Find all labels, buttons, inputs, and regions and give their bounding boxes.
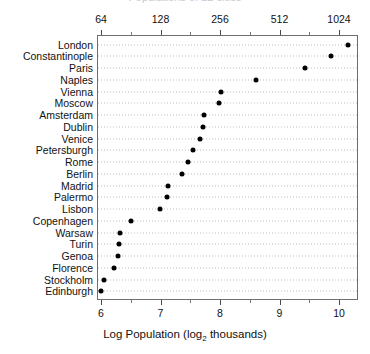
gridline	[98, 197, 357, 198]
category-label: Rome	[65, 156, 93, 168]
data-point[interactable]	[303, 66, 308, 71]
gridline	[98, 220, 357, 221]
gridline	[98, 291, 357, 292]
top-axis-tick	[280, 30, 281, 35]
top-axis-tick-label: 256	[211, 13, 229, 25]
data-point[interactable]	[101, 277, 106, 282]
gridline	[98, 267, 357, 268]
category-label: Moscow	[54, 97, 93, 109]
gridline	[98, 232, 357, 233]
gridline	[98, 256, 357, 257]
category-label: Genoa	[61, 250, 93, 262]
bottom-axis-minor-tick	[309, 300, 310, 303]
category-label: Naples	[60, 74, 93, 86]
gridline	[98, 44, 357, 45]
gridline	[98, 162, 357, 163]
category-label: Palermo	[54, 191, 93, 203]
gridline	[98, 126, 357, 127]
category-label: Vienna	[60, 86, 93, 98]
category-label: London	[58, 39, 93, 51]
data-point[interactable]	[185, 160, 190, 165]
gridline	[98, 244, 357, 245]
bottom-axis-tick	[161, 300, 162, 305]
bottom-axis-tick-label: 7	[158, 307, 164, 319]
x-axis-label: Log Population (log2 thousands)	[0, 328, 370, 343]
x-axis-label-tail: thousands)	[207, 328, 267, 340]
category-label: Constantinople	[23, 50, 93, 62]
gridline	[98, 91, 357, 92]
data-point[interactable]	[179, 171, 184, 176]
top-axis-minor-tick	[309, 32, 310, 35]
plot-area	[97, 35, 358, 300]
bottom-axis-tick	[280, 300, 281, 305]
data-point[interactable]	[216, 101, 221, 106]
data-point[interactable]	[329, 54, 334, 59]
top-axis-minor-tick	[250, 32, 251, 35]
bottom-axis-tick	[101, 300, 102, 305]
category-label: Lisbon	[62, 203, 93, 215]
bottom-axis-minor-tick	[131, 300, 132, 303]
bottom-axis-tick-label: 9	[277, 307, 283, 319]
bottom-axis-tick	[220, 300, 221, 305]
data-point[interactable]	[99, 289, 104, 294]
data-point[interactable]	[112, 265, 117, 270]
bottom-axis-minor-tick	[250, 300, 251, 303]
gridline	[98, 103, 357, 104]
top-axis-tick-label: 128	[152, 13, 170, 25]
top-axis-tick-label: 64	[95, 13, 107, 25]
category-label: Berlin	[66, 168, 93, 180]
gridline	[98, 150, 357, 151]
chart-root: Populations of 22 cities 641282565121024…	[0, 0, 370, 354]
bottom-axis-minor-tick	[190, 300, 191, 303]
data-point[interactable]	[116, 254, 121, 259]
data-point[interactable]	[116, 242, 121, 247]
data-point[interactable]	[197, 136, 202, 141]
bottom-axis-tick-label: 6	[98, 307, 104, 319]
gridline	[98, 173, 357, 174]
data-point[interactable]	[157, 207, 162, 212]
data-point[interactable]	[200, 124, 205, 129]
top-axis-minor-tick	[131, 32, 132, 35]
top-axis-tick	[161, 30, 162, 35]
gridline	[98, 68, 357, 69]
data-point[interactable]	[218, 89, 223, 94]
category-label: Edinburgh	[45, 285, 93, 297]
gridline	[98, 279, 357, 280]
gridline	[98, 56, 357, 57]
category-label: Venice	[61, 133, 93, 145]
gridline	[98, 79, 357, 80]
chart-title: Populations of 22 cities	[0, 0, 370, 3]
top-axis-tick	[220, 30, 221, 35]
data-point[interactable]	[118, 230, 123, 235]
category-label: Copenhagen	[33, 215, 93, 227]
bottom-axis-tick-label: 10	[333, 307, 345, 319]
category-label: Turin	[69, 238, 93, 250]
top-axis-tick-label: 512	[271, 13, 289, 25]
top-axis-tick	[339, 30, 340, 35]
data-point[interactable]	[166, 183, 171, 188]
top-axis-tick-label: 1024	[327, 13, 350, 25]
category-label: Madrid	[61, 180, 93, 192]
data-point[interactable]	[201, 113, 206, 118]
category-label: Petersburgh	[36, 144, 93, 156]
top-axis-minor-tick	[190, 32, 191, 35]
category-label: Stockholm	[44, 274, 93, 286]
data-point[interactable]	[128, 218, 133, 223]
gridline	[98, 138, 357, 139]
category-label: Dublin	[63, 121, 93, 133]
category-label: Warsaw	[55, 227, 93, 239]
gridline	[98, 209, 357, 210]
data-point[interactable]	[345, 42, 350, 47]
category-label: Florence	[52, 262, 93, 274]
category-label: Amsterdam	[39, 109, 93, 121]
x-axis-label-main: Log Population (log	[103, 328, 202, 340]
data-point[interactable]	[165, 195, 170, 200]
gridline	[98, 115, 357, 116]
gridline	[98, 185, 357, 186]
top-axis-tick	[101, 30, 102, 35]
bottom-axis-tick-label: 8	[217, 307, 223, 319]
data-point[interactable]	[191, 148, 196, 153]
data-point[interactable]	[254, 77, 259, 82]
bottom-axis-tick	[339, 300, 340, 305]
category-label: Paris	[69, 62, 93, 74]
